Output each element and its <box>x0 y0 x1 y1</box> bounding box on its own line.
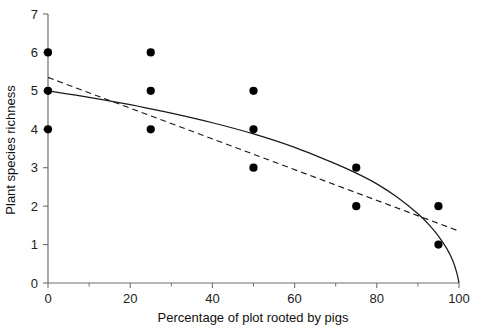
x-tick-label-20: 20 <box>123 291 137 306</box>
y-tick-label-2: 2 <box>31 199 38 214</box>
y-tick-label-6: 6 <box>31 45 38 60</box>
plot-canvas: 01234567 020406080100 Percentage of plot… <box>0 0 481 330</box>
data-point <box>352 164 360 172</box>
fitted-curve-line <box>48 91 459 283</box>
data-point <box>249 87 257 95</box>
data-point <box>249 125 257 133</box>
x-tick-label-60: 60 <box>287 291 301 306</box>
data-point <box>147 125 155 133</box>
y-tick-label-4: 4 <box>31 122 38 137</box>
data-point <box>147 87 155 95</box>
data-point <box>44 87 52 95</box>
x-axis-title: Percentage of plot rooted by pigs <box>158 310 349 325</box>
x-tick-label-100: 100 <box>448 291 470 306</box>
data-point <box>249 164 257 172</box>
data-point <box>434 240 442 248</box>
data-point <box>352 202 360 210</box>
data-point <box>44 125 52 133</box>
data-point <box>434 202 442 210</box>
y-tick-label-7: 7 <box>31 7 38 22</box>
data-point-group <box>44 48 443 248</box>
x-tick-label-40: 40 <box>205 291 219 306</box>
y-axis-tick-labels: 01234567 <box>31 7 38 291</box>
x-tick-label-80: 80 <box>370 291 384 306</box>
data-point <box>44 48 52 56</box>
scatter-plot-figure: 01234567 020406080100 Percentage of plot… <box>0 0 481 330</box>
y-axis-title: Plant species richness <box>3 85 18 215</box>
data-point <box>147 48 155 56</box>
axes <box>48 14 459 283</box>
linear-regression-line <box>48 77 459 231</box>
y-tick-label-3: 3 <box>31 160 38 175</box>
x-axis-tick-labels: 020406080100 <box>44 291 469 306</box>
y-tick-label-0: 0 <box>31 276 38 291</box>
y-tick-label-1: 1 <box>31 237 38 252</box>
y-tick-label-5: 5 <box>31 83 38 98</box>
x-tick-label-0: 0 <box>44 291 51 306</box>
x-axis-ticks <box>48 283 459 288</box>
